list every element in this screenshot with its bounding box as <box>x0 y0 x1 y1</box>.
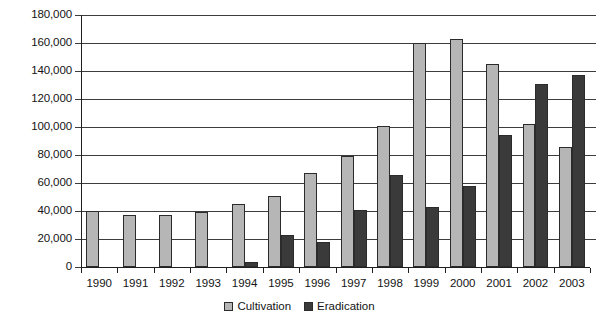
x-axis-tick-label-1996: 1996 <box>299 277 335 289</box>
x-axis-tick-label-2002: 2002 <box>517 277 553 289</box>
bar-eradication-1998 <box>390 175 403 267</box>
x-axis-tick-label-1991: 1991 <box>117 277 153 289</box>
x-axis-tick-mark <box>590 268 591 273</box>
right-scale-tick <box>590 71 596 72</box>
bar-cultivation-1991 <box>123 215 136 268</box>
bar-cultivation-2000 <box>450 39 463 267</box>
y-axis-tick-label: 0 <box>8 261 72 273</box>
legend-swatch-cultivation <box>224 302 233 311</box>
bar-cultivation-1996 <box>304 173 317 267</box>
bar-cultivation-1990 <box>86 211 99 267</box>
y-axis-tick-label: 140,000 <box>8 65 72 77</box>
chart-legend: Cultivation Eradication <box>0 300 599 312</box>
bar-cultivation-2002 <box>523 124 536 267</box>
right-scale-tick <box>590 239 596 240</box>
y-axis-tick-label: 20,000 <box>8 233 72 245</box>
bar-cultivation-1995 <box>268 196 281 267</box>
legend-item-eradication: Eradication <box>304 300 375 312</box>
x-axis-tick-mark <box>190 268 191 273</box>
x-axis-tick-mark <box>408 268 409 273</box>
right-scale-tick <box>590 15 596 16</box>
bar-cultivation-2003 <box>559 147 572 267</box>
bar-cultivation-1994 <box>232 204 245 267</box>
x-axis-tick-label-1998: 1998 <box>372 277 408 289</box>
right-scale-tick <box>590 155 596 156</box>
plot-area <box>81 15 590 267</box>
bar-cultivation-1998 <box>377 126 390 267</box>
x-axis-tick-label-2000: 2000 <box>445 277 481 289</box>
x-axis-tick-label-1994: 1994 <box>226 277 262 289</box>
bar-cultivation-2001 <box>486 64 499 267</box>
x-axis-tick-mark <box>554 268 555 273</box>
x-axis-tick-mark <box>117 268 118 273</box>
bar-eradication-1997 <box>354 210 367 267</box>
x-axis-tick-mark <box>299 268 300 273</box>
bar-eradication-1999 <box>426 207 439 267</box>
bar-eradication-2001 <box>499 135 512 267</box>
x-axis-tick-label-1993: 1993 <box>190 277 226 289</box>
x-axis-tick-mark <box>445 268 446 273</box>
bar-eradication-1996 <box>317 242 330 267</box>
legend-item-cultivation: Cultivation <box>224 300 291 312</box>
x-axis-tick-label-1992: 1992 <box>154 277 190 289</box>
right-scale-tick <box>590 99 596 100</box>
y-axis-line <box>81 15 82 268</box>
right-scale-tick <box>590 127 596 128</box>
y-axis-tick-label: 40,000 <box>8 205 72 217</box>
x-axis-tick-label-2003: 2003 <box>554 277 590 289</box>
bar-eradication-2003 <box>572 75 585 267</box>
legend-label-cultivation: Cultivation <box>237 300 291 312</box>
y-axis-tick-label: 100,000 <box>8 121 72 133</box>
x-axis-tick-label-1997: 1997 <box>336 277 372 289</box>
x-axis-tick-label-2001: 2001 <box>481 277 517 289</box>
bar-eradication-2002 <box>535 84 548 267</box>
y-axis-tick-label: 60,000 <box>8 177 72 189</box>
y-axis-tick-label: 180,000 <box>8 9 72 21</box>
bar-chart-figure: 020,00040,00060,00080,000100,000120,0001… <box>0 0 599 329</box>
bar-cultivation-1999 <box>413 43 426 267</box>
legend-swatch-eradication <box>304 302 313 311</box>
right-scale-tick <box>590 183 596 184</box>
right-scale-tick <box>590 43 596 44</box>
y-axis-tick-label: 160,000 <box>8 37 72 49</box>
y-axis-labels: 020,00040,00060,00080,000100,000120,0001… <box>0 0 72 329</box>
bar-cultivation-1993 <box>195 212 208 267</box>
bar-eradication-2000 <box>463 186 476 267</box>
x-axis-tick-mark <box>372 268 373 273</box>
y-axis-tick-label: 120,000 <box>8 93 72 105</box>
legend-label-eradication: Eradication <box>317 300 375 312</box>
x-axis-tick-mark <box>154 268 155 273</box>
x-axis-tick-mark <box>481 268 482 273</box>
x-axis-tick-mark <box>226 268 227 273</box>
right-scale-tick <box>590 211 596 212</box>
x-axis-tick-mark <box>517 268 518 273</box>
x-axis-tick-mark <box>263 268 264 273</box>
x-axis-tick-mark <box>336 268 337 273</box>
y-axis-tick-label: 80,000 <box>8 149 72 161</box>
bar-eradication-1995 <box>281 235 294 267</box>
bar-cultivation-1992 <box>159 215 172 267</box>
x-axis-tick-label-1999: 1999 <box>408 277 444 289</box>
x-axis-tick-label-1990: 1990 <box>81 277 117 289</box>
x-axis-tick-mark <box>81 268 82 273</box>
bar-cultivation-1997 <box>341 156 354 267</box>
x-axis-tick-label-1995: 1995 <box>263 277 299 289</box>
